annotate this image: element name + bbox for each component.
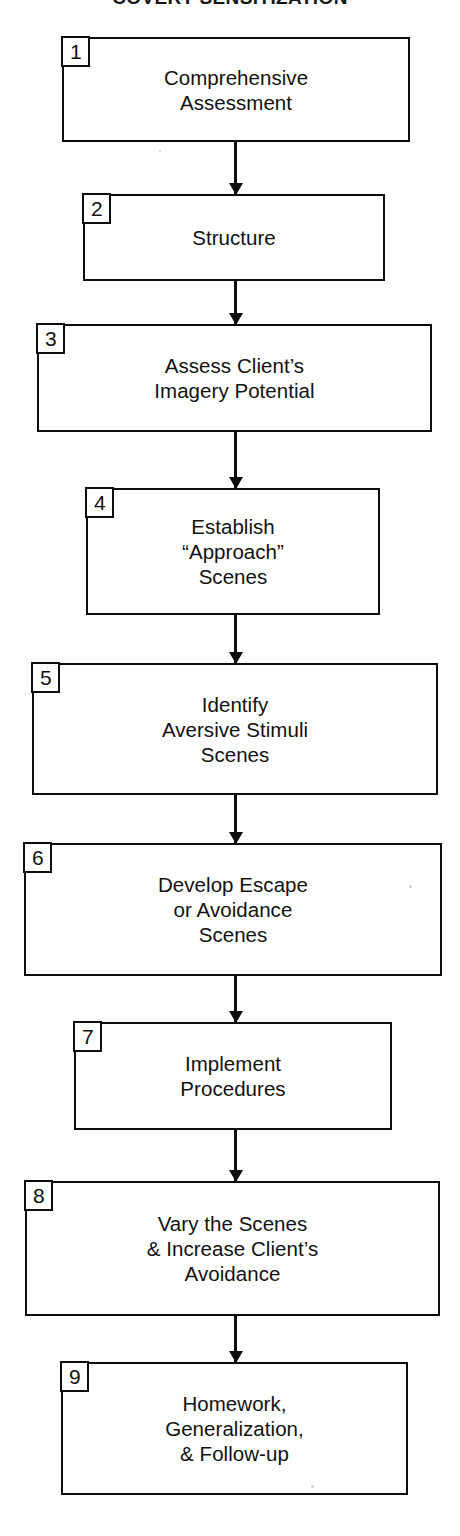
connector-arrow-3-to-4 <box>234 432 237 488</box>
node-number-badge-1: 1 <box>61 36 90 67</box>
flowchart-node-4[interactable]: 4Establish “Approach” Scenes <box>86 488 380 615</box>
flowchart-node-9[interactable]: 9Homework, Generalization, & Follow-up <box>61 1362 408 1495</box>
node-number-badge-7: 7 <box>73 1021 102 1052</box>
flowchart-node-8[interactable]: 8Vary the Scenes & Increase Client’s Avo… <box>25 1181 440 1316</box>
flowchart-node-3[interactable]: 3Assess Client’s Imagery Potential <box>37 324 432 432</box>
flowchart-node-1[interactable]: 1Comprehensive Assessment <box>62 37 410 142</box>
node-number-badge-9: 9 <box>60 1361 89 1392</box>
flowchart-node-6[interactable]: 6Develop Escape or Avoidance Scenes <box>24 843 442 976</box>
node-label-4: Establish “Approach” Scenes <box>176 514 290 589</box>
node-label-8: Vary the Scenes & Increase Client’s Avoi… <box>141 1211 325 1286</box>
connector-arrow-5-to-6 <box>234 795 237 843</box>
node-label-1: Comprehensive Assessment <box>158 65 314 115</box>
node-number-badge-4: 4 <box>85 487 114 518</box>
connector-arrow-8-to-9 <box>234 1316 237 1362</box>
node-label-7: Implement Procedures <box>174 1051 291 1101</box>
connector-arrow-4-to-5 <box>234 615 237 663</box>
node-label-3: Assess Client’s Imagery Potential <box>148 353 320 403</box>
node-label-6: Develop Escape or Avoidance Scenes <box>152 872 314 947</box>
connector-arrow-2-to-3 <box>234 281 237 324</box>
node-number-badge-5: 5 <box>31 662 60 693</box>
node-number-badge-6: 6 <box>23 842 52 873</box>
node-number-badge-8: 8 <box>24 1180 53 1211</box>
flowchart-canvas: COVERT SENSITIZATION 1Comprehensive Asse… <box>0 0 460 1536</box>
scan-speck <box>159 150 161 152</box>
connector-arrow-7-to-8 <box>234 1130 237 1181</box>
node-number-badge-2: 2 <box>82 193 111 224</box>
node-label-9: Homework, Generalization, & Follow-up <box>159 1391 310 1466</box>
flowchart-node-2[interactable]: 2Structure <box>83 194 385 281</box>
connector-arrow-1-to-2 <box>234 142 237 194</box>
connector-arrow-6-to-7 <box>234 976 237 1022</box>
node-label-2: Structure <box>186 225 282 250</box>
node-number-badge-3: 3 <box>36 323 65 354</box>
flowchart-node-7[interactable]: 7Implement Procedures <box>74 1022 392 1130</box>
page-title: COVERT SENSITIZATION <box>0 0 460 9</box>
node-label-5: Identify Aversive Stimuli Scenes <box>156 692 314 767</box>
flowchart-node-5[interactable]: 5Identify Aversive Stimuli Scenes <box>32 663 438 795</box>
